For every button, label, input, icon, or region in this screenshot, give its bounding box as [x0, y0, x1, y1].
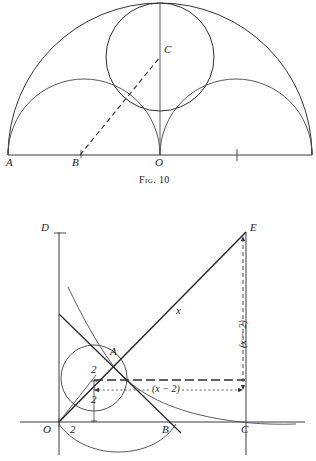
- vertical-rise-label: (x − 2): [238, 320, 248, 348]
- right-semicircle-arc: [160, 79, 312, 155]
- lower-label-E: E: [250, 222, 257, 233]
- horizontal-run-label: (x − 2): [150, 384, 182, 394]
- lower-label-B: B: [162, 424, 169, 435]
- fig-10-group: [8, 3, 312, 161]
- measure-arrow-right: [238, 388, 243, 392]
- fig10-label-C: C: [164, 44, 171, 55]
- measure-arrow-bottom: [241, 385, 245, 390]
- left-semicircle-arc: [8, 79, 160, 155]
- fig10-label-B: B: [72, 157, 79, 168]
- hypotenuse-length-label: x: [176, 305, 181, 316]
- dashed-line-bc: [80, 57, 160, 155]
- figure-page: A B O C Fig. 10 D O A B C E x 2 2 2 (x −…: [0, 0, 316, 461]
- fig10-label-O: O: [155, 157, 163, 168]
- tangent-line-through-a: [59, 314, 181, 433]
- radius-label-vertical: 2: [91, 394, 97, 405]
- lower-label-D: D: [41, 222, 49, 233]
- hyperbola-lower-branch: [59, 424, 176, 452]
- figure-caption: Fig. 10: [139, 174, 170, 185]
- lower-figure-group: [20, 232, 305, 455]
- lower-label-A: A: [110, 346, 117, 357]
- measure-arrow-left: [94, 388, 99, 392]
- radius-label-slant: 2: [91, 364, 97, 375]
- lower-label-C: C: [241, 424, 248, 435]
- x-intercept-label: 2: [70, 424, 76, 435]
- fig10-label-A: A: [6, 157, 13, 168]
- lower-label-O: O: [43, 424, 51, 435]
